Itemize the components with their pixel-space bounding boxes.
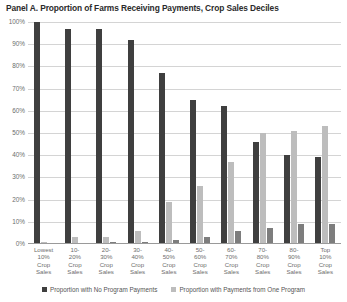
x-axis-tick-label: 60-70%CropSales — [216, 246, 247, 276]
x-axis-label-line: 30% — [91, 253, 122, 260]
bar-group-bars — [59, 22, 90, 244]
chart-title: Panel A. Proportion of Farms Receiving P… — [6, 3, 343, 13]
x-axis-label-line: Sales — [153, 268, 184, 275]
y-axis-tick-label: 70% — [12, 85, 25, 91]
y-axis-tick-label: 20% — [12, 196, 25, 202]
chart-container: Panel A. Proportion of Farms Receiving P… — [0, 0, 347, 302]
y-axis-tick-label: 90% — [12, 41, 25, 47]
x-axis-label-line: Lowest — [28, 246, 59, 253]
x-axis-label-line: Crop — [184, 261, 215, 268]
x-axis-label-line: Crop — [216, 261, 247, 268]
x-axis-tick-label: 10-20%CropSales — [59, 246, 90, 276]
bar-group-bars — [153, 22, 184, 244]
bar[interactable] — [197, 186, 203, 244]
x-axis-label-line: Sales — [216, 268, 247, 275]
y-axis-tick-label: 50% — [12, 130, 25, 136]
y-axis-tick-label: 0% — [16, 241, 25, 247]
bar[interactable] — [96, 29, 102, 244]
x-axis-label-line: 80% — [247, 253, 278, 260]
bar[interactable] — [298, 224, 304, 244]
y-axis-tick-label: 80% — [12, 63, 25, 69]
x-axis-label-line: Sales — [28, 268, 59, 275]
x-axis-label-line: Sales — [247, 268, 278, 275]
bar[interactable] — [329, 224, 335, 244]
bar-group — [184, 22, 215, 244]
x-axis-label-line: Crop — [278, 261, 309, 268]
x-axis-label-line: 10% — [28, 253, 59, 260]
legend-label: Proportion with No Program Payments — [50, 286, 157, 293]
x-axis-tick-label: Top10%CropSales — [310, 246, 341, 276]
x-axis-label-line: Crop — [310, 261, 341, 268]
bar[interactable] — [221, 106, 227, 244]
bar[interactable] — [159, 73, 165, 244]
bar-group — [91, 22, 122, 244]
x-axis-label-line: Crop — [91, 261, 122, 268]
bar[interactable] — [166, 202, 172, 244]
x-axis-label-line: 60- — [216, 246, 247, 253]
x-axis-label-line: 90% — [278, 253, 309, 260]
x-axis-tick-label: 20-30%CropSales — [91, 246, 122, 276]
bar[interactable] — [322, 126, 328, 244]
x-axis-label-line: 70- — [247, 246, 278, 253]
bar-group-bars — [310, 22, 341, 244]
bar[interactable] — [284, 155, 290, 244]
bar[interactable] — [235, 231, 241, 244]
x-axis-label-line: 20- — [91, 246, 122, 253]
bar-group-bars — [28, 22, 59, 244]
x-axis-label-line: 40- — [153, 246, 184, 253]
bar[interactable] — [260, 133, 266, 244]
legend-item[interactable]: Proportion with No Program Payments — [42, 286, 157, 293]
bar[interactable] — [267, 228, 273, 244]
chart-legend: Proportion with No Program PaymentsPropo… — [0, 286, 347, 293]
x-axis-label-line: 20% — [59, 253, 90, 260]
bar-group — [28, 22, 59, 244]
bar-group-bars — [216, 22, 247, 244]
bar[interactable] — [65, 29, 71, 244]
bar-group-bars — [247, 22, 278, 244]
x-axis-label-line: 40% — [122, 253, 153, 260]
x-axis-label-line: Crop — [153, 261, 184, 268]
x-axis-label-line: Crop — [247, 261, 278, 268]
bar-group — [122, 22, 153, 244]
bar-group — [59, 22, 90, 244]
legend-label: Proportion with Payments from One Progra… — [179, 286, 305, 293]
x-axis-label-line: Sales — [122, 268, 153, 275]
x-axis-tick-label: 40-50%CropSales — [153, 246, 184, 276]
x-axis-label-line: 70% — [216, 253, 247, 260]
x-axis-label-line: 10- — [59, 246, 90, 253]
x-axis-label-line: 50% — [153, 253, 184, 260]
bar-group-bars — [184, 22, 215, 244]
y-axis-tick-label: 100% — [9, 19, 25, 25]
bar[interactable] — [135, 231, 141, 244]
x-axis-labels: Lowest10%CropSales10-20%CropSales20-30%C… — [28, 246, 341, 276]
bar-group-bars — [122, 22, 153, 244]
bar-group — [278, 22, 309, 244]
bar[interactable] — [128, 40, 134, 244]
bar[interactable] — [190, 100, 196, 244]
x-axis-label-line: Sales — [59, 268, 90, 275]
bar-group — [310, 22, 341, 244]
bar[interactable] — [315, 157, 321, 244]
x-axis-tick-label: 80-90%CropSales — [278, 246, 309, 276]
x-axis-label-line: Crop — [28, 261, 59, 268]
y-axis-tick-label: 10% — [12, 219, 25, 225]
bar[interactable] — [291, 131, 297, 244]
y-axis-tick-label: 60% — [12, 108, 25, 114]
y-axis-tick-label: 30% — [12, 174, 25, 180]
plot-area: 100%90%80%70%60%50%40%30%20%10%0% — [28, 22, 341, 244]
x-axis-label-line: Crop — [122, 261, 153, 268]
x-axis-label-line: 30- — [122, 246, 153, 253]
x-axis-tick-label: 30-40%CropSales — [122, 246, 153, 276]
x-axis-label-line: Sales — [310, 268, 341, 275]
bar[interactable] — [34, 22, 40, 244]
legend-swatch — [42, 287, 47, 292]
x-axis-label-line: Top — [310, 246, 341, 253]
x-axis-tick-label: 50-60%CropSales — [184, 246, 215, 276]
legend-item[interactable]: Proportion with Payments from One Progra… — [171, 286, 305, 293]
bar[interactable] — [228, 162, 234, 244]
x-axis-label-line: 50- — [184, 246, 215, 253]
bar[interactable] — [253, 142, 259, 244]
bar-group — [247, 22, 278, 244]
x-axis-label-line: 60% — [184, 253, 215, 260]
x-axis-label-line: Crop — [59, 261, 90, 268]
